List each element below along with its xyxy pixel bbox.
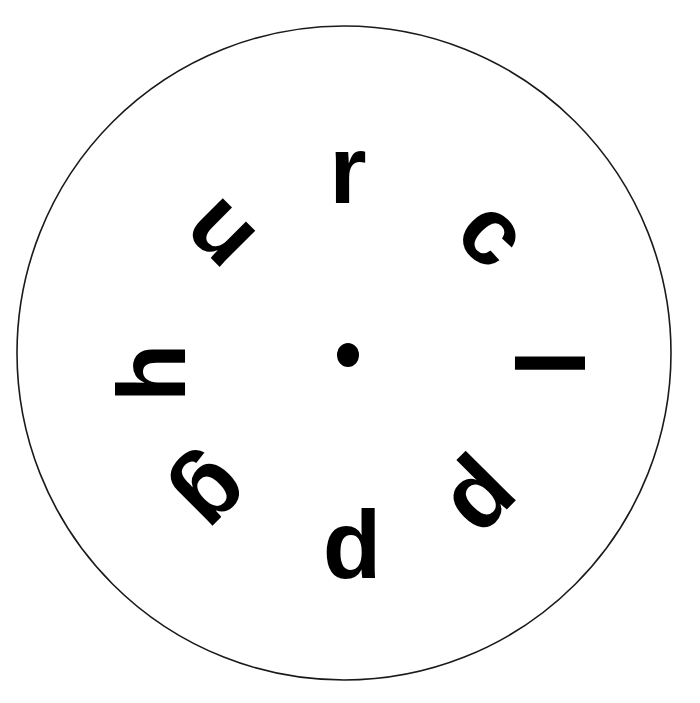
- center-dot: [337, 343, 359, 367]
- letter-wheel-figure: rclpdghn: [0, 0, 700, 703]
